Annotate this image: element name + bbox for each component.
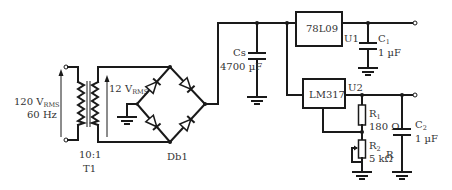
svg-text:C2: C2 [415,119,427,132]
adj-wire [323,108,362,132]
u1-ref: U1 [344,33,359,44]
source-voltage-sub: RMS [44,101,60,109]
source-frequency: 60 Hz [27,109,57,120]
resistor-r1 [359,95,366,140]
cs-value: 4700 µF [220,61,262,72]
transformer-t1 [68,67,170,142]
r2-ref-sub: 2 [377,145,381,153]
transformer-ratio: 10:1 [79,149,101,160]
svg-text:12 VRMS: 12 VRMS [109,83,148,96]
bridge-ref: Db1 [167,151,188,162]
c2-note: R [386,149,394,160]
ground-icon [118,117,136,124]
u2-output-terminal [413,93,417,97]
u2-part: LM317 [309,89,345,100]
ground-icon [393,172,411,179]
capacitor-c2 [394,95,410,172]
capacitor-c1 [360,23,376,68]
svg-text:R2: R2 [369,140,381,153]
r1-ref-sub: 1 [377,113,381,121]
source-label: 120 VRMS 60 Hz [14,96,60,120]
cs-ref: Cs [233,47,246,58]
r1-value: 180 Ω [369,121,400,132]
secondary-voltage: 12 V [109,83,133,94]
svg-text:120 VRMS: 120 VRMS [14,96,60,109]
svg-text:C1: C1 [378,33,390,46]
u1-output-terminal [413,21,417,25]
source-voltage: 120 V [14,96,44,107]
power-supply-schematic: 120 VRMS 60 Hz 10:1 T1 12 VRMS [0,0,452,190]
c1-value: 1 µF [378,47,401,58]
c2-ref-sub: 2 [423,124,427,132]
transformer-ref: T1 [83,163,96,174]
ground-icon [353,172,371,179]
svg-text:R1: R1 [369,108,381,121]
bridge-rectifier-db1 [127,65,207,144]
c2-value: 1 µF [415,133,438,144]
c1-ref-sub: 1 [386,38,390,46]
ground-icon [359,68,377,75]
u1-part: 78L09 [306,23,338,34]
u2-ref: U2 [348,82,363,93]
potentiometer-r2 [352,140,366,172]
ground-icon [248,97,266,104]
capacitor-cs [249,23,265,97]
